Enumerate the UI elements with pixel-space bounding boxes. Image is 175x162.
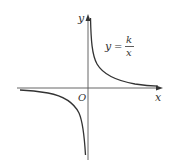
hyperbola-diagram: y x O y = k x bbox=[0, 0, 175, 162]
x-axis-label: x bbox=[155, 91, 162, 104]
y-axis-arrow-icon bbox=[86, 14, 91, 21]
curve-branch-quadrant-3 bbox=[20, 90, 86, 155]
function-denominator: x bbox=[126, 47, 132, 58]
function-numerator: k bbox=[126, 34, 132, 45]
function-equals: = bbox=[114, 41, 122, 52]
function-lhs: y bbox=[104, 40, 112, 53]
curve-branch-quadrant-1 bbox=[91, 18, 159, 86]
function-label: y = k x bbox=[104, 34, 134, 58]
y-axis-label: y bbox=[77, 12, 85, 25]
origin-label: O bbox=[78, 92, 86, 103]
